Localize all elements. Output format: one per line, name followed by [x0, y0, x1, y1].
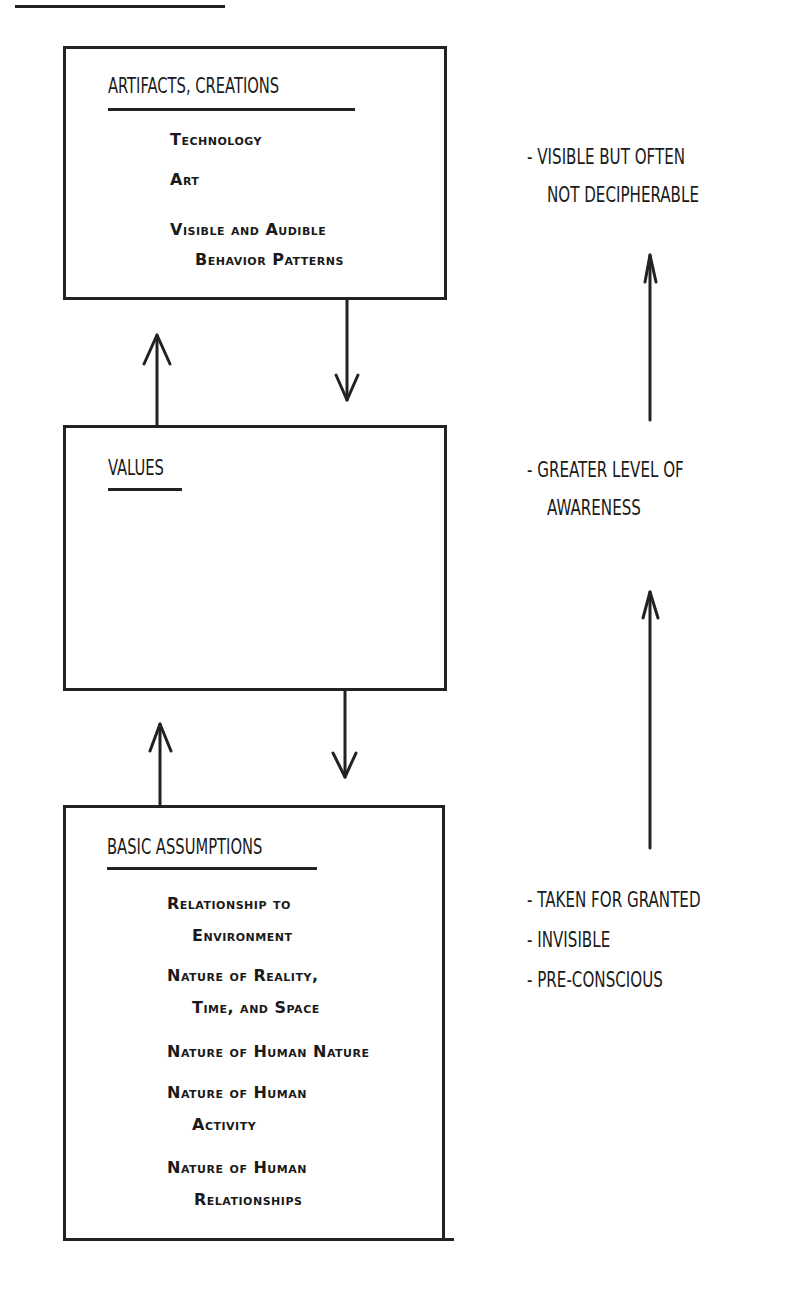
- awareness-arrow-up-icon: [645, 255, 656, 420]
- awareness-arrow-up-icon: [643, 592, 658, 848]
- arrows-layer: [0, 0, 803, 1308]
- arrow-down-icon: [333, 691, 356, 777]
- arrow-up-icon: [150, 724, 171, 805]
- arrow-up-icon: [144, 335, 170, 425]
- arrow-down-icon: [336, 300, 358, 400]
